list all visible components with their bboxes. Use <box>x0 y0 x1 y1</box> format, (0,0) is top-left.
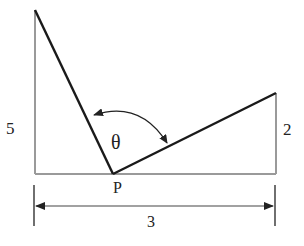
label-right-height: 2 <box>283 120 292 139</box>
label-left-height: 5 <box>6 119 15 138</box>
right-wire <box>113 93 276 174</box>
angle-arc-icon <box>94 111 167 143</box>
diagram-canvas: 5 2 θ P 3 <box>0 0 304 246</box>
label-point-p: P <box>113 179 122 196</box>
label-angle-theta: θ <box>111 131 121 153</box>
label-base-distance: 3 <box>147 213 155 230</box>
left-wire <box>35 10 113 174</box>
